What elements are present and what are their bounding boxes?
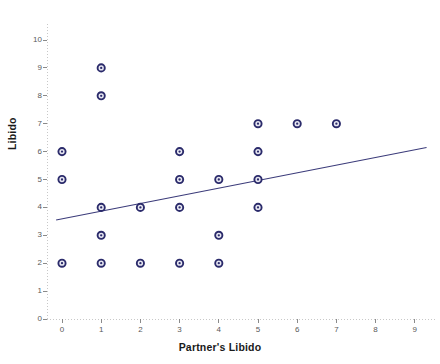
x-tick-label: 7 [334,326,338,334]
data-point [137,260,144,267]
x-tick-label: 0 [60,326,64,334]
y-tick-label: 1 [20,287,42,295]
y-tick-label: 5 [20,176,42,184]
x-tick-label: 5 [256,326,260,334]
y-axis-title: Libido [6,117,18,150]
x-tick-label: 8 [373,326,377,334]
data-point [176,148,183,155]
x-tick-label: 6 [295,326,299,334]
data-point [333,120,340,127]
data-point [98,64,105,71]
data-point [58,148,65,155]
plot-area: 0123456789 012345678910 Partner's Libido… [0,0,440,364]
data-point [98,232,105,239]
x-tick-label: 3 [177,326,181,334]
data-point [98,204,105,211]
data-point [176,204,183,211]
data-point [254,176,261,183]
x-tick-label: 1 [99,326,103,334]
x-tick-label: 4 [217,326,221,334]
y-tick-label: 4 [20,203,42,211]
y-tick-label: 3 [20,231,42,239]
data-point [176,260,183,267]
data-point [215,176,222,183]
y-tick-label: 2 [20,259,42,267]
y-tick-label: 7 [20,120,42,128]
x-axis-title: Partner's Libido [0,341,440,353]
data-point [98,260,105,267]
y-tick-label: 0 [20,315,42,323]
data-point [58,176,65,183]
data-point [254,204,261,211]
data-point [215,232,222,239]
data-point [294,120,301,127]
x-tick-label: 2 [138,326,142,334]
data-point [215,260,222,267]
data-point [58,260,65,267]
scatter-plot-figure: 0123456789 012345678910 Partner's Libido… [0,0,440,364]
y-tick-label: 6 [20,148,42,156]
data-point [176,176,183,183]
data-point [98,92,105,99]
y-tick-label: 8 [20,92,42,100]
data-point [254,120,261,127]
y-tick-label: 9 [20,64,42,72]
data-point [254,148,261,155]
data-point [137,204,144,211]
data-points-layer [0,0,440,364]
x-tick-label: 9 [413,326,417,334]
y-tick-label: 10 [20,36,42,44]
